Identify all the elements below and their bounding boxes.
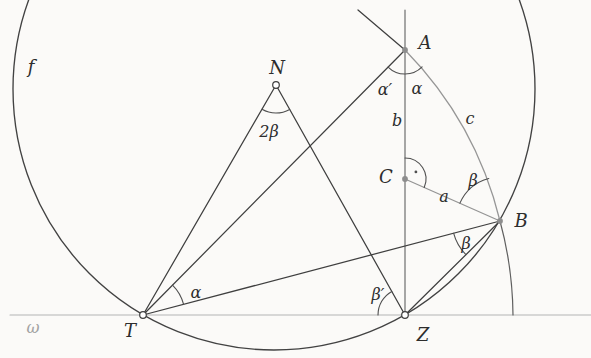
label-alpha-prime: α′ [378,80,393,99]
point-A [402,47,408,53]
label-B: B [513,210,527,231]
label-T: T [124,320,138,341]
point-C [402,176,408,182]
point-N [273,82,280,89]
right-angle-dot-at-C [415,171,418,174]
point-Z [402,312,409,319]
label-Z: Z [416,324,430,345]
label-N: N [268,57,286,78]
label-b: b [392,111,402,130]
figure-svg: fN2βAα′αbcCaβBβαβ′ωTZ [0,0,591,358]
label-alpha-at-T: α [191,283,202,302]
label-A: A [417,32,432,53]
label-2beta: 2β [258,122,278,141]
geometry-figure: fN2βAα′αbcCaβBβαβ′ωTZ [0,0,591,358]
label-beta-lower: β [460,234,470,253]
label-omega: ω [26,318,39,337]
label-alpha-at-A: α [412,79,423,98]
point-T [140,312,147,319]
label-c: c [466,109,475,128]
label-C: C [379,166,393,187]
label-beta-prime: β′ [371,285,385,304]
label-a: a [439,187,449,206]
label-beta-upper: β [467,171,477,190]
point-B [497,218,503,224]
paper-background [0,0,591,358]
